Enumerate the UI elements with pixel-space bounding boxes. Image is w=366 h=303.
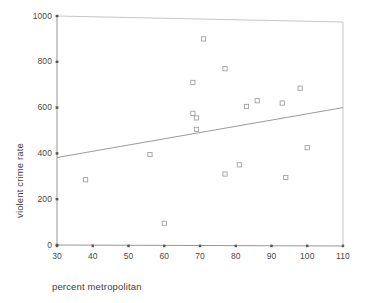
data-point <box>194 116 198 120</box>
y-tick-label-0: 0 <box>20 240 52 250</box>
data-point <box>237 163 241 167</box>
axis-tick-marks <box>56 15 345 247</box>
data-point <box>305 146 309 150</box>
x-tick-label-60: 60 <box>149 251 179 261</box>
data-point <box>223 172 227 176</box>
data-point-series <box>84 37 310 226</box>
data-point <box>148 152 152 156</box>
x-tick-label-80: 80 <box>221 251 251 261</box>
x-tick-label-50: 50 <box>114 251 144 261</box>
data-point <box>194 127 198 131</box>
x-tick-label-90: 90 <box>257 251 287 261</box>
data-point <box>191 111 195 115</box>
x-tick-label-70: 70 <box>185 251 215 261</box>
regression-line <box>57 108 343 158</box>
data-point <box>223 67 227 71</box>
x-tick-label-40: 40 <box>78 251 108 261</box>
y-tick-label-1000: 1000 <box>20 11 52 21</box>
plot-axes <box>57 16 343 246</box>
data-point <box>280 101 284 105</box>
data-point <box>244 104 248 108</box>
data-point <box>84 178 88 182</box>
x-tick-label-30: 30 <box>42 251 72 261</box>
x-tick-label-110: 110 <box>328 251 358 261</box>
data-point <box>162 221 166 225</box>
y-axis-title: violent crime rate <box>14 143 25 218</box>
x-axis-title: percent metropolitan <box>52 281 142 292</box>
data-point <box>298 86 302 90</box>
y-tick-label-600: 600 <box>20 102 52 112</box>
data-point <box>201 37 205 41</box>
x-tick-label-100: 100 <box>292 251 322 261</box>
scatter-plot-figure: 02004006008001000 30405060708090100110 p… <box>0 0 366 303</box>
data-point <box>255 99 259 103</box>
data-point <box>191 80 195 84</box>
y-tick-label-800: 800 <box>20 56 52 66</box>
data-point <box>284 175 288 179</box>
